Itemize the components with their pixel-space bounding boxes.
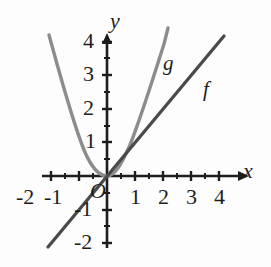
x-tick-label-neg1: -1	[44, 186, 62, 208]
function-graph-figure: -2 -1 1 2 3 4 4 3 2 1 -1 -2 x y O g f	[0, 0, 271, 267]
y-tick-label-neg2: -2	[74, 231, 92, 253]
curve-label-g: g	[163, 53, 174, 74]
x-tick-label-2: 2	[158, 186, 169, 208]
x-tick-label-1: 1	[130, 186, 141, 208]
y-tick-label-1: 1	[85, 130, 96, 152]
x-tick-label-neg2: -2	[16, 186, 34, 208]
x-tick-label-4: 4	[214, 186, 225, 208]
y-tick-label-4: 4	[83, 30, 94, 52]
y-tick-label-2: 2	[83, 97, 94, 119]
x-axis-label: x	[243, 160, 253, 182]
curve-label-f: f	[203, 79, 209, 100]
curve-g	[49, 28, 168, 176]
y-axis-label: y	[110, 10, 120, 32]
origin-label: O	[90, 180, 106, 202]
graph-canvas	[0, 0, 271, 267]
x-tick-label-3: 3	[186, 186, 197, 208]
y-axis	[102, 33, 112, 248]
y-tick-label-3: 3	[83, 63, 94, 85]
